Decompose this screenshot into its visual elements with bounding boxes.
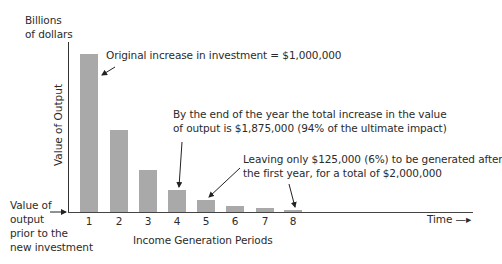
arrow-to-bar-5: [209, 168, 240, 197]
arrow-to-bar-1: [102, 67, 115, 75]
arrow-to-bar-8: [289, 184, 295, 207]
arrow-to-bar-4: [179, 142, 182, 187]
